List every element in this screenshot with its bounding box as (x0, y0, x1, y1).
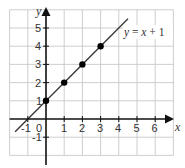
point-3-4 (97, 43, 103, 49)
y-tick-3: 3 (35, 58, 41, 70)
line-y-equals-x-plus-1 (15, 19, 128, 132)
point-0-1 (43, 98, 49, 104)
y-tick-1: 1 (36, 95, 42, 107)
x-axis-arrow-icon (165, 115, 174, 124)
x-tick-3: 3 (97, 122, 103, 134)
y-tick-2: 2 (35, 77, 41, 89)
x-tick-0: 0 (36, 122, 42, 134)
point-2-3 (79, 61, 85, 67)
x-tick-1: 1 (61, 122, 67, 134)
y-tick-4: 4 (35, 40, 41, 52)
x-tick-4: 4 (115, 122, 121, 134)
x-axis (10, 115, 174, 124)
x-tick-5: 5 (134, 122, 140, 134)
y-tick-5: 5 (35, 22, 41, 34)
y-axis-arrow-icon (42, 7, 51, 16)
x-axis-label: x (174, 120, 181, 134)
x-tick-2: 2 (79, 122, 85, 134)
y-axis-label: y (35, 4, 42, 18)
equation-label: y = x + 1 (123, 26, 165, 39)
graph: 5 4 3 2 1 -1 -1 0 1 2 3 4 5 6 y x y = x … (0, 0, 185, 168)
point-1-2 (61, 79, 67, 85)
x-tick-minus-1: -1 (21, 122, 31, 134)
y-axis (42, 7, 51, 165)
x-tick-6: 6 (152, 122, 158, 134)
